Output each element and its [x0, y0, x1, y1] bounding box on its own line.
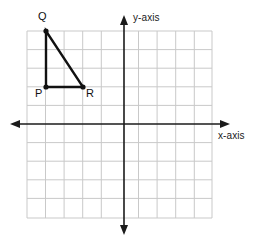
y-axis-label: y-axis: [133, 12, 160, 23]
vertex-point-r: [80, 84, 85, 89]
vertex-label-r: R: [86, 87, 94, 99]
coordinate-plane-canvas: [0, 0, 266, 246]
vertex-label-q: Q: [38, 10, 47, 22]
x-axis-line: [10, 120, 230, 128]
vertex-label-p: P: [35, 87, 42, 99]
vertex-point-q: [43, 28, 48, 33]
vertex-point-p: [43, 84, 48, 89]
x-axis-label: x-axis: [218, 130, 245, 141]
y-axis-line: [120, 15, 128, 235]
coordinate-plane-figure: y-axis x-axis Q P R: [0, 0, 266, 246]
